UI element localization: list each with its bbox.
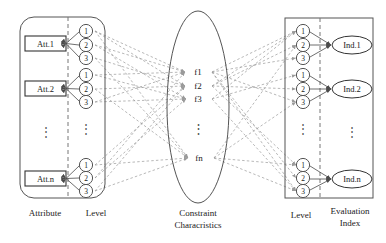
right-panel-group: 1 2 3 Ind.1 1: [285, 18, 373, 198]
network-diagram-svg: Att.1 1 2 3 Att.2: [0, 0, 386, 243]
level-circle[interactable]: 1: [296, 68, 309, 81]
caption-evaluation-line1: Evaluation: [331, 206, 370, 216]
caption-level-left: Level: [86, 208, 107, 218]
constraint-ellipse: [167, 11, 229, 203]
diagram-canvas: Att.1 1 2 3 Att.2: [0, 0, 386, 243]
left-panel-ellipsis: ⋮: [40, 125, 52, 139]
right-level-ellipsis: ⋮: [297, 122, 309, 136]
left-panel-group: Att.1 1 2 3 Att.2: [20, 17, 105, 198]
constraint-item-f2[interactable]: f2: [194, 81, 202, 91]
constraint-item-f3[interactable]: f3: [194, 94, 202, 104]
level-circle-label: 2: [84, 41, 88, 50]
attribute-group-1: Att.1 1 2 3: [25, 24, 93, 64]
caption-evaluation-line2: Index: [340, 218, 361, 228]
index-group-1: 1 2 3 Ind.1: [296, 24, 372, 64]
level-circle-label: 2: [84, 174, 88, 183]
level-circle-label: 3: [301, 187, 305, 196]
level-circle[interactable]: 2: [79, 82, 92, 95]
level-circle[interactable]: 2: [79, 171, 92, 184]
caption-attribute: Attribute: [29, 208, 62, 218]
level-circle-label: 1: [301, 27, 305, 36]
constraint-item-f1[interactable]: f1: [194, 67, 202, 77]
level-circle[interactable]: 3: [296, 95, 309, 108]
level-circle-label: 2: [301, 174, 305, 183]
index-group-2: 1 2 3 Ind.2: [296, 68, 372, 108]
caption-constraint-line2: Characristics: [175, 220, 222, 230]
level-circle-label: 1: [84, 161, 88, 170]
attribute-group-2: Att.2 1 2 3: [25, 68, 93, 108]
attribute-group-n: Att.n 1 2 3: [25, 158, 93, 197]
constraint-ellipsis: ⋮: [192, 121, 205, 136]
caption-constraint-line1: Constraint: [179, 208, 217, 218]
constraint-characteristics-group: f1 f2 f3 ⋮ fn: [167, 11, 229, 203]
level-circle-label: 2: [301, 85, 305, 94]
attribute-box-label: Att.2: [37, 84, 54, 94]
level-circle[interactable]: 3: [296, 184, 309, 197]
index-oval-label: Ind.2: [343, 84, 361, 94]
level-circle[interactable]: 2: [296, 171, 309, 184]
level-circle[interactable]: 3: [79, 95, 92, 108]
caption-level-right: Level: [291, 210, 312, 220]
index-oval-label: Ind.1: [343, 40, 361, 50]
level-circle-label: 3: [84, 187, 88, 196]
level-circle[interactable]: 1: [79, 158, 92, 171]
level-circle[interactable]: 2: [79, 38, 92, 51]
level-circle[interactable]: 1: [296, 24, 309, 37]
level-circle-label: 2: [84, 85, 88, 94]
attribute-box-label: Att.n: [37, 174, 55, 184]
level-circle[interactable]: 3: [79, 51, 92, 64]
level-circle-label: 3: [301, 54, 305, 63]
level-circle-label: 3: [84, 54, 88, 63]
index-oval-label: Ind.n: [343, 174, 361, 184]
level-circle[interactable]: 2: [296, 38, 309, 51]
level-circle-label: 1: [84, 71, 88, 80]
captions-group: Attribute Level Constraint Characristics…: [29, 206, 370, 230]
level-circle[interactable]: 1: [296, 158, 309, 171]
level-circle-label: 1: [301, 161, 305, 170]
attribute-box-label: Att.1: [37, 39, 54, 49]
level-circle[interactable]: 1: [79, 24, 92, 37]
level-circle[interactable]: 2: [296, 82, 309, 95]
level-circle-label: 3: [301, 98, 305, 107]
level-circle-label: 1: [301, 71, 305, 80]
attr-level-edge: [66, 178, 79, 179]
level-circle[interactable]: 1: [79, 68, 92, 81]
attr-level-edge: [66, 89, 79, 90]
level-circle-label: 3: [84, 98, 88, 107]
right-index-ellipsis: ⋮: [346, 125, 358, 139]
left-level-ellipsis: ⋮: [80, 122, 92, 136]
level-circle-label: 1: [84, 27, 88, 36]
level-circle[interactable]: 3: [79, 184, 92, 197]
level-circle-label: 2: [301, 41, 305, 50]
level-circle[interactable]: 3: [296, 51, 309, 64]
constraint-item-fn[interactable]: fn: [195, 153, 203, 163]
attr-level-edge: [66, 44, 79, 46]
index-group-n: 1 2 3 Ind.n: [296, 158, 372, 197]
